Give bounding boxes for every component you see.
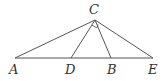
label-B: B bbox=[106, 62, 117, 77]
label-E: E bbox=[147, 62, 158, 77]
geometry-diagram: C A D B E bbox=[0, 0, 166, 81]
label-A: A bbox=[8, 62, 18, 77]
label-C: C bbox=[89, 2, 99, 17]
label-D: D bbox=[64, 62, 76, 77]
segment-CE bbox=[95, 20, 153, 58]
